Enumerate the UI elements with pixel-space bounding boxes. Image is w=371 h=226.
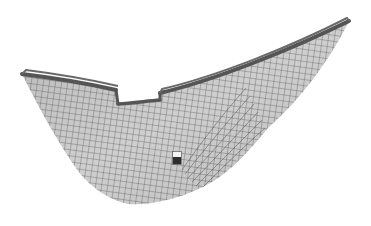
mesh-viewport <box>0 0 371 226</box>
square-hole <box>173 152 182 165</box>
shell-mesh-render <box>0 0 371 226</box>
